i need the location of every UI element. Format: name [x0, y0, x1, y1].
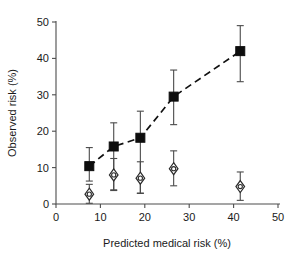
data-point-diamond [236, 181, 245, 193]
data-point-square [109, 142, 118, 151]
data-point-diamond [85, 188, 94, 200]
y-tick-label: 30 [37, 89, 49, 101]
chart-figure: 0102030405001020304050Predicted medical … [0, 0, 295, 255]
x-tick-label: 30 [183, 211, 195, 223]
data-point-square [169, 92, 178, 101]
x-tick-label: 40 [227, 211, 239, 223]
data-point-diamond [136, 172, 145, 184]
y-axis-title: Observed risk (%) [6, 69, 18, 157]
data-point-square [236, 47, 245, 56]
x-tick-label: 0 [53, 211, 59, 223]
y-tick-label: 0 [43, 198, 49, 210]
scatter-plot: 0102030405001020304050Predicted medical … [0, 0, 295, 255]
y-tick-label: 40 [37, 52, 49, 64]
data-point-diamond [109, 169, 118, 181]
x-tick-label: 20 [139, 211, 151, 223]
data-point-square [85, 162, 94, 171]
x-tick-label: 50 [272, 211, 284, 223]
data-point-square [136, 133, 145, 142]
data-point-diamond [169, 163, 178, 175]
y-tick-label: 20 [37, 125, 49, 137]
x-tick-label: 10 [94, 211, 106, 223]
y-tick-label: 10 [37, 162, 49, 174]
x-axis-title: Predicted medical risk (%) [103, 237, 231, 249]
y-tick-label: 50 [37, 16, 49, 28]
